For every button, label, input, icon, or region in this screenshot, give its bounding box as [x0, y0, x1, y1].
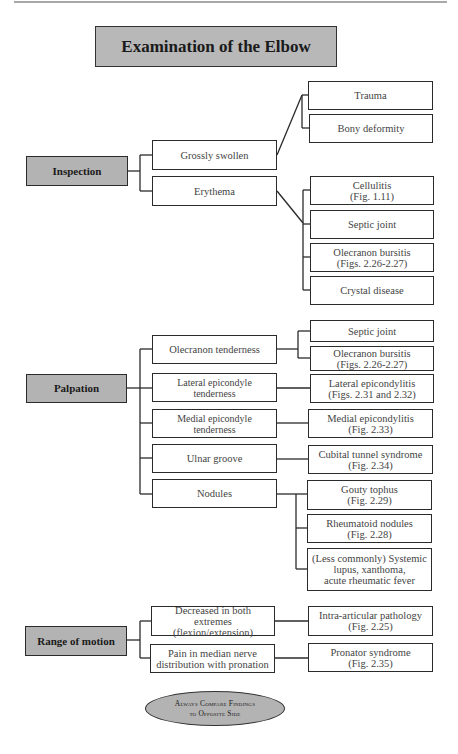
cause-medial-epicondylitis: Medial epicondylitis (Fig. 2.33) [308, 409, 433, 438]
cause-lateral-epicondylitis: Lateral epicondylitis (Figs. 2.31 and 2.… [310, 374, 434, 403]
cause-less-commonly-systemic: (Less commonly) Systemic lupus, xanthoma… [307, 548, 432, 591]
compare-opposite-side-note: Always Compare Findings to Opposite Side [145, 691, 285, 726]
finding-decreased-both-extremes: Decreased in both extremes (flexion/exte… [151, 606, 275, 636]
finding-nodules: Nodules [152, 479, 277, 508]
finding-erythema: Erythema [152, 176, 277, 206]
category-range-of-motion: Range of motion [25, 626, 127, 656]
finding-pain-median-nerve: Pain in median nerve distribution with p… [150, 644, 275, 673]
cause-cellulitis: Cellulitis (Fig. 1.11) [310, 176, 434, 205]
finding-lateral-epicondyle-tenderness: Lateral epicondyle tenderness [152, 373, 277, 402]
cause-olecranon-bursitis-palpation: Olecranon bursitis (Figs. 2.26-2.27) [310, 346, 434, 371]
finding-grossly-swollen: Grossly swollen [152, 140, 277, 170]
cause-septic-joint: Septic joint [310, 210, 434, 239]
cause-rheumatoid-nodules: Rheumatoid nodules (Fig. 2.28) [307, 514, 432, 543]
category-palpation: Palpation [26, 374, 127, 403]
cause-bony-deformity: Bony deformity [309, 114, 433, 143]
cause-trauma: Trauma [308, 81, 433, 110]
finding-olecranon-tenderness: Olecranon tenderness [152, 335, 277, 364]
cause-crystal-disease: Crystal disease [310, 276, 434, 305]
finding-medial-epicondyle-tenderness: Medial epicondyle tenderness [152, 409, 277, 438]
note-line-2: to Opposite Side [189, 709, 240, 719]
cause-olecranon-bursitis: Olecranon bursitis (Figs. 2.26-2.27) [310, 243, 434, 272]
cause-cubital-tunnel-syndrome: Cubital tunnel syndrome (Fig. 2.34) [308, 445, 433, 474]
cause-intra-articular-pathology: Intra-articular pathology (Fig. 2.25) [308, 606, 433, 636]
finding-ulnar-groove: Ulnar groove [152, 444, 277, 473]
cause-gouty-tophus: Gouty tophus (Fig. 2.29) [307, 480, 432, 510]
category-inspection: Inspection [26, 156, 128, 186]
cause-septic-joint-palpation: Septic joint [310, 320, 434, 342]
note-line-1: Always Compare Findings [175, 699, 255, 709]
cause-pronator-syndrome: Pronator syndrome (Fig. 2.35) [308, 643, 433, 672]
